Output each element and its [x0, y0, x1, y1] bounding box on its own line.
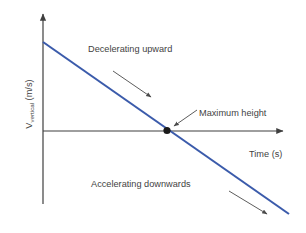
- accelerating-downwards-label: Accelerating downwards: [91, 179, 191, 189]
- decelerating-annotation-arrow: [113, 71, 151, 97]
- maximum-height-point: [163, 127, 170, 134]
- x-axis-label: Time (s): [249, 149, 282, 159]
- velocity-time-graph-figure: Vvertical (m/s) Decelerating upward Maxi…: [0, 0, 306, 233]
- y-axis-label-units: (m/s): [24, 79, 34, 102]
- y-axis-label: Vvertical (m/s): [24, 61, 34, 147]
- maximum-height-label: Maximum height: [199, 108, 266, 118]
- decelerating-upward-label: Decelerating upward: [88, 44, 172, 54]
- y-axis-label-subscript: vertical: [27, 103, 34, 123]
- y-axis-label-main: V: [24, 123, 34, 129]
- maximum-height-annotation-arrow: [174, 110, 197, 126]
